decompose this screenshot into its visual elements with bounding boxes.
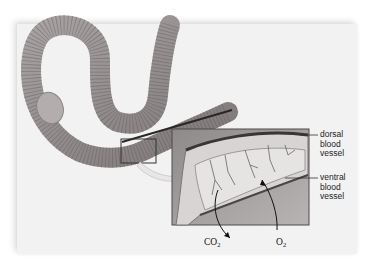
label-line: vessel [320,192,346,202]
co2-base: CO [204,237,217,247]
dorsal-blood-vessel-label: dorsal blood vessel [320,130,344,159]
label-line: vessel [320,149,344,159]
o2-base: O [276,237,283,247]
co2-subscript: 2 [217,241,220,248]
earthworm-illustration [0,0,367,271]
inset-magnified-view [172,129,309,225]
o2-subscript: 2 [283,241,286,248]
o2-label: O2 [276,237,286,248]
co2-label: CO2 [204,237,220,248]
ventral-blood-vessel-label: ventral blood vessel [320,173,346,202]
